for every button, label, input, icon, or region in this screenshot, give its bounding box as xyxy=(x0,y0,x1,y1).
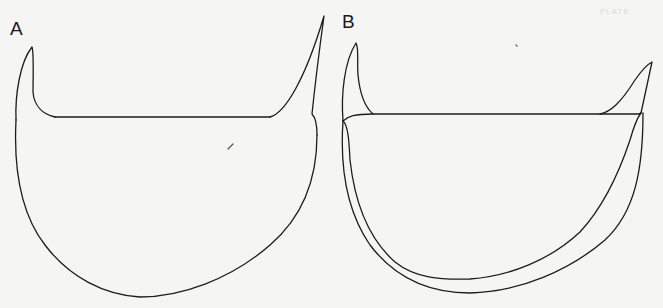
panel-a-left-horn xyxy=(16,47,55,120)
panel-a-right-spine xyxy=(270,16,324,135)
panel-a-outline xyxy=(16,16,324,297)
panel-a-speck xyxy=(228,144,233,149)
panel-b-inner-shell xyxy=(343,113,641,279)
panel-b-right-horn xyxy=(600,62,652,114)
panel-b-left-horn xyxy=(342,43,373,121)
panel-b-outline xyxy=(342,43,652,293)
panel-b-speck xyxy=(516,45,517,46)
panel-b-rim xyxy=(343,113,641,121)
drawing-canvas xyxy=(0,0,663,308)
figure-plate: PLATE A B xyxy=(0,0,663,308)
panel-b-outer-shell xyxy=(342,113,643,293)
panel-a-body xyxy=(16,120,317,297)
